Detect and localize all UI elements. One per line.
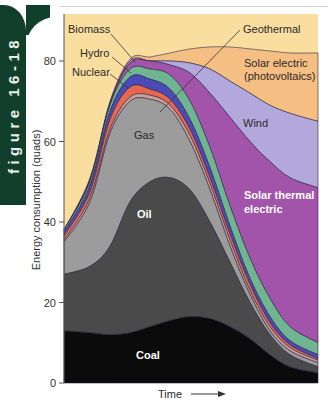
y-tick-label: 40	[44, 216, 56, 228]
label-hydro: Hydro	[80, 47, 109, 59]
label-nuclear: Nuclear	[72, 66, 110, 78]
y-tick-label: 80	[44, 55, 56, 67]
y-axis-ticks: 020406080	[44, 55, 64, 389]
label-solar-electric: Solar electric	[244, 57, 308, 69]
label-gas: Gas	[134, 129, 155, 141]
label-solar-thermal-electric: electric	[244, 203, 283, 215]
label-photovoltaics: (photovoltaics)	[244, 70, 316, 82]
y-tick-label: 60	[44, 136, 56, 148]
y-tick-label: 0	[50, 377, 56, 389]
label-biomass: Biomass	[68, 23, 111, 35]
stacked-area-chart: 020406080 Energy consumption (quads) Tim…	[0, 0, 328, 404]
label-geothermal: Geothermal	[243, 23, 300, 35]
y-tick-label: 20	[44, 297, 56, 309]
y-axis-label: Energy consumption (quads)	[30, 130, 42, 271]
label-solar-thermal: Solar thermal	[244, 189, 314, 201]
label-coal: Coal	[136, 349, 160, 361]
label-wind: Wind	[243, 117, 268, 129]
x-axis-arrow-icon	[218, 391, 226, 397]
x-axis-label: Time	[158, 388, 182, 400]
label-oil: Oil	[137, 208, 152, 220]
